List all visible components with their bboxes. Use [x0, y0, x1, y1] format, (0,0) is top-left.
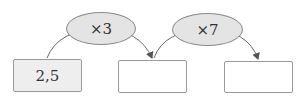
- start-value-box: 2,5: [13, 59, 82, 92]
- operation-ellipse-2: ×7: [172, 13, 243, 46]
- start-value: 2,5: [36, 67, 60, 85]
- operation-label-1: ×3: [90, 20, 112, 38]
- answer-box-1[interactable]: [118, 60, 187, 93]
- operation-ellipse-1: ×3: [66, 12, 136, 45]
- answer-box-2[interactable]: [224, 61, 293, 93]
- operation-label-2: ×7: [196, 21, 218, 39]
